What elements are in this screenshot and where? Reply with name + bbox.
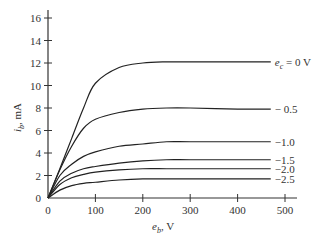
x-tick-label: 100	[87, 204, 104, 216]
y-tick-label: 2	[36, 170, 42, 182]
x-tick-label: 200	[135, 204, 152, 216]
curves	[48, 62, 271, 198]
y-tick-label: 10	[30, 80, 42, 92]
curve-label: ec = 0 V	[275, 56, 311, 71]
y-axis-label: ib, mA	[11, 103, 26, 132]
y-tick-label: 16	[30, 12, 42, 24]
y-tick-label: 6	[36, 125, 42, 137]
curve-label: −1.0	[275, 136, 295, 148]
y-tick-label: 14	[30, 35, 42, 47]
x-tick-label: 500	[277, 204, 294, 216]
y-tick-label: 4	[36, 147, 42, 159]
curve-label: − 0.5	[275, 103, 298, 115]
x-tick-label: 300	[182, 204, 199, 216]
y-tick-label: 0	[36, 192, 42, 204]
curve-e-c-0-v	[48, 62, 271, 198]
curve-labels: ec = 0 V− 0.5−1.0−1.5−2.0−2.5	[275, 56, 311, 185]
y-tick-label: 8	[36, 102, 42, 114]
x-tick-label: 400	[229, 204, 246, 216]
curve-label: −2.5	[275, 173, 295, 185]
tick-marks: 02468101214160100200300400500	[30, 12, 294, 216]
curve--0-5	[48, 108, 271, 198]
x-axis-label: eb, V	[152, 220, 174, 235]
plate-characteristic-chart: 02468101214160100200300400500 ec = 0 V− …	[0, 0, 321, 242]
x-tick-label: 0	[45, 204, 51, 216]
y-tick-label: 12	[30, 57, 41, 69]
